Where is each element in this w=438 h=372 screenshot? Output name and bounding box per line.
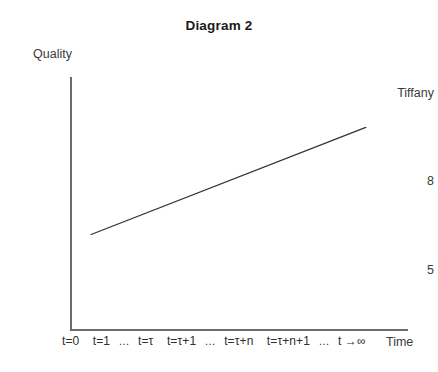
y-tick-label-8: 8: [372, 174, 438, 188]
x-tick-labels: t=0 t=1 … t=τ t=τ+1 … t=τ+n t=τ+n+1 … t …: [62, 334, 366, 348]
x-tick-label-tau-plus-n-plus-1: t=τ+n+1: [267, 334, 310, 348]
y-axis-label: Quality: [33, 47, 72, 61]
x-tick-label-0: t=0: [62, 334, 79, 348]
x-tick-label-1: t=1: [93, 334, 110, 348]
diagram-figure: Diagram 2 Quality Tiffany 8 5 t=0 t=1 … …: [0, 0, 438, 372]
x-tick-label-tau: t=τ: [138, 334, 153, 348]
x-axis-line: [70, 329, 408, 331]
x-tick-label-tau-plus-n: t=τ+n: [224, 334, 253, 348]
page-title: Diagram 2: [0, 18, 438, 33]
x-tick-label-tau-plus-1: t=τ+1: [167, 334, 196, 348]
x-tick-ellipsis-2: …: [205, 335, 216, 347]
x-tick-ellipsis-1: …: [119, 335, 130, 347]
y-tick-label-tiffany: Tiffany: [372, 86, 438, 100]
x-tick-ellipsis-3: …: [318, 335, 329, 347]
quality-trend-line: [91, 127, 366, 234]
x-axis-label: Time: [386, 335, 413, 349]
x-tick-label-infinity: t →∞: [338, 334, 366, 348]
y-axis-line: [70, 77, 72, 331]
y-tick-label-5: 5: [372, 263, 438, 277]
